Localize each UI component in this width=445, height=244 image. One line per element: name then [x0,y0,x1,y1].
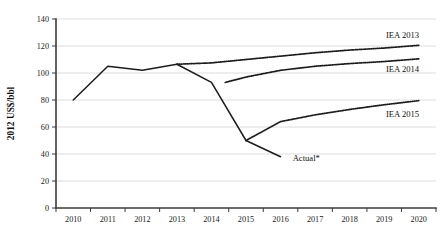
x-tick-label-2014: 2014 [203,215,219,224]
x-tick-label-2016: 2016 [272,215,288,224]
gridlines-group [56,19,436,181]
y-tick-label-60: 60 [41,123,49,132]
axis-titles-group: 2012 US$/bbl [6,86,16,140]
x-tick-label-2018: 2018 [341,215,357,224]
y-tick-label-120: 120 [37,42,49,51]
x-tick-label-2013: 2013 [169,215,185,224]
y-axis-group: 020406080100120140 [37,15,56,213]
oil-price-forecast-chart: 020406080100120140 201020112012201320142… [0,0,445,244]
series-label-iea-2013: IEA 2013 [386,30,419,40]
x-tick-label-2020: 2020 [411,215,427,224]
series-label-actual: Actual* [293,153,320,163]
series-line-actual [73,64,280,156]
x-tick-label-2019: 2019 [376,215,392,224]
x-axis-group: 2010201120122013201420152016201720182019… [56,208,436,224]
series-line-iea-2015 [246,101,419,141]
y-tick-label-140: 140 [37,15,49,24]
y-tick-label-40: 40 [41,150,49,159]
x-tick-label-2011: 2011 [100,215,116,224]
x-tick-label-2010: 2010 [65,215,81,224]
x-tick-label-2017: 2017 [307,215,323,224]
y-tick-label-100: 100 [37,69,49,78]
x-tick-label-2015: 2015 [238,215,254,224]
x-tick-label-2012: 2012 [134,215,150,224]
series-label-iea-2014: IEA 2014 [386,64,420,74]
series-label-iea-2015: IEA 2015 [386,109,419,119]
series-group [73,45,418,156]
y-tick-label-20: 20 [41,177,49,186]
y-tick-label-80: 80 [41,96,49,105]
y-tick-label-0: 0 [45,204,49,213]
chart-canvas: 020406080100120140 201020112012201320142… [0,0,445,244]
y-axis-title: 2012 US$/bbl [6,86,16,140]
